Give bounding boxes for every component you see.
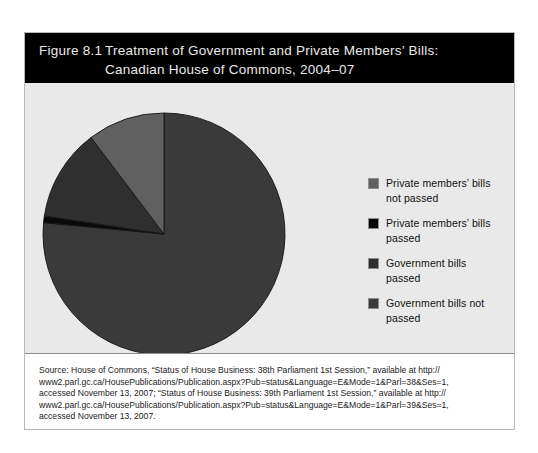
pie-slice-group	[43, 113, 285, 355]
legend-label-government-not-passed: Government bills not passed	[386, 296, 503, 325]
pie-chart	[42, 112, 286, 356]
figure-header: Figure 8.1 Treatment of Government and P…	[25, 33, 514, 83]
legend-swatch-private-not-passed	[368, 178, 379, 189]
legend-label-private-passed: Private members’ bills passed	[386, 216, 503, 245]
legend-swatch-government-passed	[368, 258, 379, 269]
pie-chart-svg	[42, 112, 286, 356]
chart-body: Private members’ bills not passed Privat…	[25, 83, 514, 353]
legend-label-government-passed: Government bills passed	[386, 256, 503, 285]
source-line: Source: House of Commons, “Status of Hou…	[39, 365, 500, 377]
source-note: Source: House of Commons, “Status of Hou…	[25, 354, 514, 429]
legend-item-government-not-passed[interactable]: Government bills not passed	[368, 296, 503, 325]
figure-container: Figure 8.1 Treatment of Government and P…	[24, 32, 515, 430]
source-line: www2.parl.gc.ca/HousePublications/Public…	[39, 377, 500, 389]
legend-swatch-private-passed	[368, 218, 379, 229]
source-line: www2.parl.gc.ca/HousePublications/Public…	[39, 400, 500, 412]
source-line: accessed November 13, 2007.	[39, 411, 500, 423]
figure-number: Figure 8.1	[39, 43, 102, 58]
figure-title-line-1: Treatment of Government and Private Memb…	[105, 43, 439, 58]
legend-label-private-not-passed: Private members’ bills not passed	[386, 176, 503, 205]
chart-legend: Private members’ bills not passed Privat…	[368, 176, 503, 336]
legend-item-private-not-passed[interactable]: Private members’ bills not passed	[368, 176, 503, 205]
figure-title-line-2: Canadian House of Commons, 2004–07	[105, 62, 354, 77]
legend-item-private-passed[interactable]: Private members’ bills passed	[368, 216, 503, 245]
legend-swatch-government-not-passed	[368, 298, 379, 309]
legend-item-government-passed[interactable]: Government bills passed	[368, 256, 503, 285]
source-line: accessed November 13, 2007; “Status of H…	[39, 388, 500, 400]
